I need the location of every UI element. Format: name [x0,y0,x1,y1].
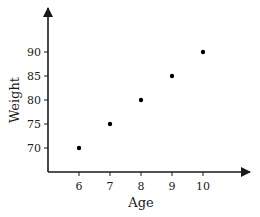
x-axis-title: Age [127,195,154,210]
scatter-chart: 7075808590 678910 Age Weight [0,0,260,217]
data-point [139,98,143,102]
y-tick-label: 85 [27,70,41,83]
y-tick-label: 75 [27,118,41,131]
y-tick-label: 70 [27,142,41,155]
data-points [77,50,205,150]
y-tick-label: 80 [27,94,41,107]
data-point [201,50,205,54]
x-tick-label: 9 [169,180,176,193]
chart-canvas: 7075808590 678910 Age Weight [0,0,260,217]
data-point [108,122,112,126]
y-tick-label: 90 [27,46,41,59]
y-axis-title: Weight [7,76,22,123]
x-axis-ticks: 678910 [76,172,211,193]
x-tick-label: 7 [107,180,114,193]
x-tick-label: 10 [196,180,210,193]
x-tick-label: 6 [76,180,83,193]
data-point [170,74,174,78]
x-tick-label: 8 [138,180,145,193]
data-point [77,146,81,150]
y-axis-ticks: 7075808590 [27,46,48,155]
